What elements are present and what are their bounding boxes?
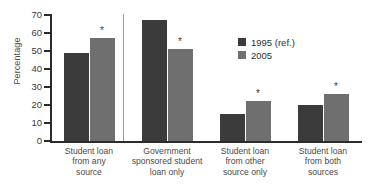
y-tick-mark (44, 68, 50, 69)
y-tick-mark (44, 50, 50, 51)
legend-item: 2005 (238, 49, 295, 61)
y-tick-label: 40 (16, 64, 42, 74)
y-axis-line (50, 14, 52, 142)
x-category-label-line: Government (128, 146, 206, 156)
y-tick-label: 0 (16, 136, 42, 146)
x-category-label-line: Student loan (50, 146, 128, 156)
legend-label-1995: 1995 (ref.) (251, 37, 295, 48)
x-category-label: Governmentsponsored studentloan only (128, 146, 206, 177)
significance-marker: * (331, 82, 341, 92)
y-tick-label: 70 (16, 10, 42, 20)
y-tick-label: 60 (16, 28, 42, 38)
bar (220, 114, 245, 141)
y-tick-mark (44, 14, 50, 15)
y-tick-mark (44, 122, 50, 123)
significance-marker: * (175, 37, 185, 47)
x-category-label-line: loan only (128, 167, 206, 177)
bar (64, 53, 89, 141)
legend-item: 1995 (ref.) (238, 36, 295, 48)
legend-swatch-2005 (238, 51, 246, 59)
legend-label-2005: 2005 (251, 50, 272, 61)
x-category-label-line: source (50, 167, 128, 177)
chart-legend: 1995 (ref.) 2005 (238, 36, 295, 62)
bar-chart: Percentage 706050403020100 **** Student … (0, 0, 374, 196)
y-tick-mark (44, 140, 50, 141)
x-axis-line (50, 141, 362, 143)
x-category-label-line: from any (50, 156, 128, 166)
x-category-label-line: sources (284, 167, 362, 177)
x-category-label-line: from other (206, 156, 284, 166)
x-category-label-line: source only (206, 167, 284, 177)
y-tick-label: 10 (16, 118, 42, 128)
significance-marker: * (253, 89, 263, 99)
x-category-label: Student loanfrom anysource (50, 146, 128, 177)
bar (246, 101, 271, 141)
y-tick-label: 30 (16, 82, 42, 92)
bar (168, 49, 193, 141)
group-divider (123, 14, 124, 141)
y-tick-label: 50 (16, 46, 42, 56)
x-category-label-line: Student loan (284, 146, 362, 156)
bar (142, 20, 167, 141)
significance-marker: * (97, 26, 107, 36)
y-tick-mark (44, 32, 50, 33)
y-tick-label: 20 (16, 100, 42, 110)
bar (324, 94, 349, 141)
y-tick-mark (44, 86, 50, 87)
x-category-label-line: sponsored student (128, 156, 206, 166)
y-tick-mark (44, 104, 50, 105)
x-category-label: Student loanfrom othersource only (206, 146, 284, 177)
x-category-label: Student loanfrom bothsources (284, 146, 362, 177)
x-category-label-line: Student loan (206, 146, 284, 156)
bar (90, 38, 115, 141)
bar (298, 105, 323, 141)
legend-swatch-1995 (238, 38, 246, 46)
x-category-label-line: from both (284, 156, 362, 166)
